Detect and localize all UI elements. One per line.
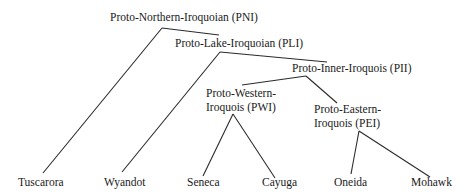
node-pei-line1: Proto-Eastern- — [314, 102, 381, 116]
leaf-cayuga: Cayuga — [262, 175, 297, 189]
leaf-tuscarora: Tuscarora — [18, 175, 64, 189]
edge-pni-pli — [162, 28, 219, 35]
node-pli: Proto-Lake-Iroquoian (PLI) — [175, 36, 303, 50]
leaf-oneida: Oneida — [334, 175, 367, 189]
edge-pei-oneida — [351, 131, 359, 174]
node-pei-line2: Iroquois (PEI) — [314, 116, 380, 130]
edge-pwi-seneca — [203, 114, 233, 176]
edge-pwi-cayuga — [233, 114, 275, 178]
leaf-mohawk: Mohawk — [411, 175, 452, 189]
leaf-wyandot: Wyandot — [104, 175, 145, 189]
edge-pei-mohawk — [359, 131, 430, 177]
edge-pii-pwi — [242, 76, 306, 85]
leaf-seneca: Seneca — [187, 175, 220, 189]
edge-pni-tuscarora — [43, 28, 162, 173]
node-pwi-line1: Proto-Western- — [206, 86, 276, 100]
edge-pii-pei — [306, 76, 337, 103]
node-pii: Proto-Inner-Iroquois (PII) — [292, 61, 412, 75]
node-pwi-line2: Iroquois (PWI) — [206, 100, 276, 114]
node-pni: Proto-Northern-Iroquoian (PNI) — [110, 10, 258, 24]
